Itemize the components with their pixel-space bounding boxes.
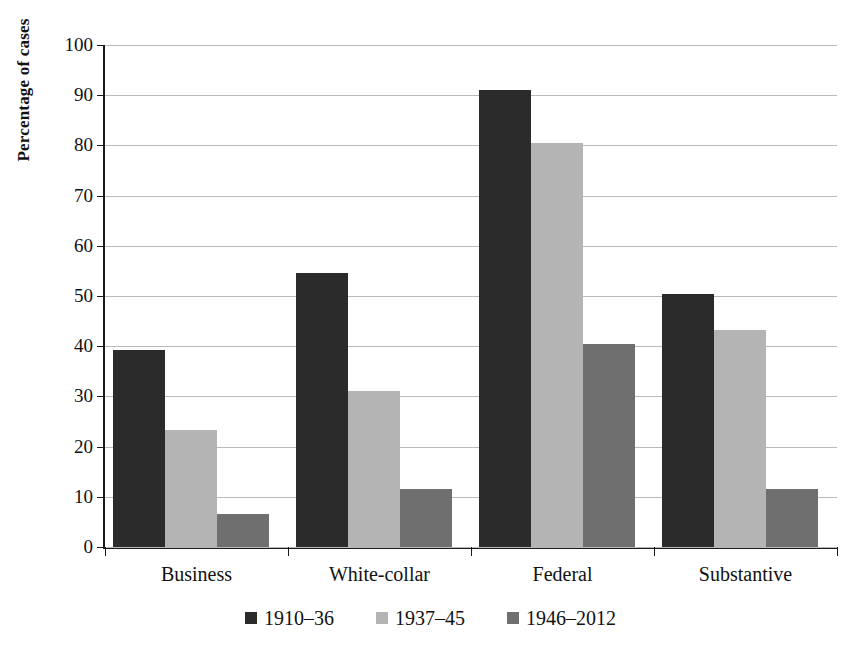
y-axis-tick (97, 296, 105, 297)
bar (217, 514, 269, 547)
legend-label: 1937–45 (395, 608, 465, 628)
chart-legend: 1910–361937–451946–2012 (0, 608, 861, 628)
plot-area: 0102030405060708090100 BusinessWhite-col… (103, 45, 837, 549)
legend-swatch-icon (245, 612, 257, 624)
x-axis-category-label: Business (161, 563, 232, 586)
bar (583, 344, 635, 547)
gridline (105, 95, 837, 96)
y-axis-tick (97, 396, 105, 397)
y-axis-tick-label: 100 (65, 35, 94, 54)
x-axis-category-label: Substantive (699, 563, 792, 586)
bar (165, 430, 217, 547)
bar (662, 294, 714, 548)
bar (531, 143, 583, 547)
y-axis-tick (97, 547, 105, 548)
y-axis-tick-label: 20 (74, 437, 93, 456)
y-axis-tick (97, 196, 105, 197)
y-axis-tick-label: 80 (74, 136, 93, 155)
legend-swatch-icon (376, 612, 388, 624)
y-axis-tick-label: 60 (74, 236, 93, 255)
x-axis-tick (105, 547, 106, 556)
y-axis-tick-label: 0 (84, 537, 94, 556)
bar-chart-figure: Percentage of cases 01020304050607080901… (0, 0, 861, 671)
x-axis-category-label: White-collar (329, 563, 430, 586)
gridline (105, 45, 837, 46)
y-axis-tick (97, 346, 105, 347)
bar (400, 489, 452, 547)
bar (113, 350, 165, 547)
y-axis-tick-label: 30 (74, 387, 93, 406)
legend-item[interactable]: 1937–45 (376, 608, 465, 628)
gridline (105, 246, 837, 247)
x-axis-tick (471, 547, 472, 556)
y-axis-tick-label: 90 (74, 85, 93, 104)
y-axis-tick (97, 145, 105, 146)
x-axis-tick (288, 547, 289, 556)
y-axis-tick-label: 40 (74, 336, 93, 355)
gridline (105, 296, 837, 297)
bar (296, 273, 348, 547)
x-axis-category-label: Federal (533, 563, 593, 586)
y-axis-tick (97, 45, 105, 46)
legend-item[interactable]: 1910–36 (245, 608, 334, 628)
bar (479, 90, 531, 547)
y-axis-tick (97, 447, 105, 448)
legend-swatch-icon (507, 612, 519, 624)
y-axis-tick-label: 70 (74, 186, 93, 205)
bar (714, 330, 766, 547)
y-axis-tick (97, 246, 105, 247)
gridline (105, 196, 837, 197)
y-axis-tick (97, 95, 105, 96)
y-axis-tick-label: 10 (74, 487, 93, 506)
legend-item[interactable]: 1946–2012 (507, 608, 616, 628)
x-axis-tick (654, 547, 655, 556)
y-axis-tick-label: 50 (74, 286, 93, 305)
gridline (105, 145, 837, 146)
x-axis-tick (837, 547, 838, 556)
bar (766, 489, 818, 547)
legend-label: 1946–2012 (526, 608, 616, 628)
y-axis-title: Percentage of cases (14, 0, 34, 210)
bar (348, 391, 400, 547)
y-axis-tick (97, 497, 105, 498)
legend-label: 1910–36 (264, 608, 334, 628)
